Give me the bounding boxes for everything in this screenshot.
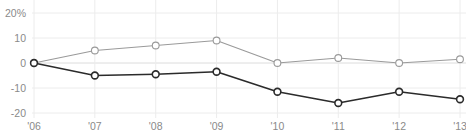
x-tick-label: '07: [88, 120, 102, 132]
data-point-upper-series-10: [274, 60, 281, 67]
x-tick-label: '13: [453, 120, 466, 132]
y-tick-label: -20: [11, 107, 26, 119]
x-axis-tick-labels: '06'07'08'09'10'11'12'13: [27, 120, 466, 132]
data-point-upper-series-11: [335, 55, 342, 62]
x-tick-label: '10: [271, 120, 285, 132]
data-point-lower-series-09: [213, 68, 220, 75]
data-point-lower-series-06: [31, 60, 38, 67]
y-axis-tick-labels: 20%100-10-20: [5, 7, 26, 119]
x-tick-label: '09: [210, 120, 224, 132]
vertical-gridlines: [34, 0, 460, 118]
x-tick-label: '06: [27, 120, 41, 132]
line-lower-series: [34, 63, 460, 103]
data-point-lower-series-13: [457, 96, 464, 103]
data-point-lower-series-07: [91, 72, 98, 79]
data-point-lower-series-11: [335, 100, 342, 107]
data-point-lower-series-12: [396, 88, 403, 95]
x-tick-label: '08: [149, 120, 163, 132]
series-markers: [31, 37, 464, 106]
data-point-upper-series-09: [213, 37, 220, 44]
x-tick-label: '11: [332, 120, 345, 132]
data-point-upper-series-13: [457, 56, 464, 63]
line-chart: 20%100-10-20 '06'07'08'09'10'11'12'13: [0, 0, 466, 137]
chart-canvas: 20%100-10-20 '06'07'08'09'10'11'12'13: [0, 0, 466, 137]
data-point-upper-series-07: [91, 47, 98, 54]
data-point-lower-series-10: [274, 88, 281, 95]
y-tick-label: -10: [11, 82, 26, 94]
data-point-upper-series-12: [396, 60, 403, 67]
y-tick-label: 0: [20, 57, 26, 69]
data-point-upper-series-08: [152, 42, 159, 49]
x-tick-label: '12: [392, 120, 406, 132]
y-tick-label: 20%: [5, 7, 26, 19]
y-tick-label: 10: [14, 32, 26, 44]
data-point-lower-series-08: [152, 71, 159, 78]
